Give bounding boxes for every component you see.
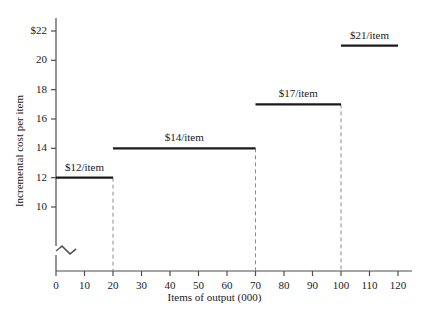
incremental-cost-step-chart: Incremental cost per item Items of outpu… bbox=[0, 0, 429, 325]
y-tick-label: 14 bbox=[0, 142, 47, 153]
x-tick-label: 90 bbox=[297, 280, 329, 291]
y-tick-label: 20 bbox=[0, 54, 47, 65]
x-tick-label: 60 bbox=[211, 280, 243, 291]
x-axis-title: Items of output (000) bbox=[0, 292, 429, 303]
x-tick-label: 70 bbox=[240, 280, 272, 291]
step-value-label: $21/item bbox=[330, 30, 410, 41]
x-tick-label: 20 bbox=[97, 280, 129, 291]
step-value-label: $17/item bbox=[258, 88, 338, 99]
x-tick-label: 100 bbox=[325, 280, 357, 291]
x-tick-label: 40 bbox=[154, 280, 186, 291]
y-tick-label: 18 bbox=[0, 84, 47, 95]
step-value-label: $12/item bbox=[45, 162, 125, 173]
x-tick-label: 80 bbox=[268, 280, 300, 291]
x-tick-label: 50 bbox=[183, 280, 215, 291]
y-tick-label: $22 bbox=[0, 25, 47, 36]
y-tick-label: 16 bbox=[0, 113, 47, 124]
y-tick-label: 12 bbox=[0, 172, 47, 183]
x-tick-label: 120 bbox=[382, 280, 414, 291]
x-tick-label: 110 bbox=[354, 280, 386, 291]
step-value-label: $14/item bbox=[144, 132, 224, 143]
x-tick-label: 0 bbox=[40, 280, 72, 291]
y-tick-label: 10 bbox=[0, 201, 47, 212]
x-tick-label: 30 bbox=[126, 280, 158, 291]
x-tick-label: 10 bbox=[69, 280, 101, 291]
